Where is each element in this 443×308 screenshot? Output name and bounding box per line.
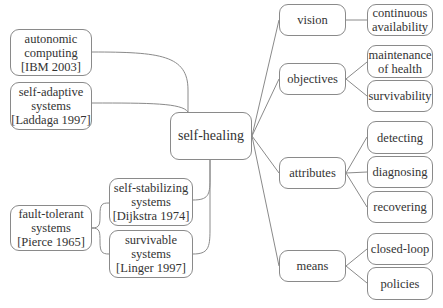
node-detecting: detecting: [367, 121, 433, 154]
node-survivability: survivability: [367, 80, 433, 112]
node-objectives: objectives: [279, 63, 346, 95]
node-self-healing: self-healing: [170, 112, 252, 160]
node-fault-tolerant-systems: fault-tolerant systems [Pierce 1965]: [10, 205, 92, 251]
node-continuous-availability: continuous availability: [367, 4, 433, 36]
node-policies: policies: [367, 267, 433, 300]
node-self-stabilizing-systems: self-stabilizing systems [Dijkstra 1974]: [109, 178, 193, 226]
node-closed-loop: closed-loop: [367, 233, 433, 265]
node-maintenance-of-health: maintenance of health: [367, 45, 433, 78]
node-means: means: [279, 250, 346, 282]
node-attributes: attributes: [279, 157, 346, 189]
node-self-adaptive-systems: self-adaptive systems [Laddaga 1997]: [10, 82, 92, 130]
node-vision: vision: [279, 4, 346, 36]
node-recovering: recovering: [367, 191, 433, 223]
node-diagnosing: diagnosing: [367, 156, 433, 188]
node-autonomic-computing: autonomic computing [IBM 2003]: [10, 29, 92, 76]
node-survivable-systems: survivable systems [Linger 1997]: [109, 230, 193, 278]
